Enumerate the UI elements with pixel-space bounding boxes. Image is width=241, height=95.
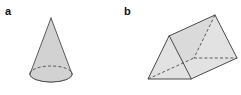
panel-label-b: b <box>124 6 131 17</box>
geometric-solids-figure: a b <box>0 0 241 95</box>
panel-label-a: a <box>5 6 11 17</box>
solids-illustration <box>0 0 241 95</box>
